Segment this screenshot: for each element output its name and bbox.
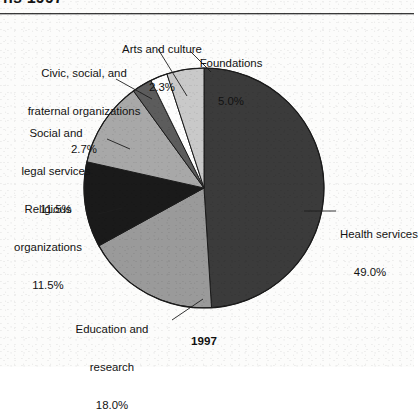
label-foundations-value: 5.0% (185, 95, 277, 108)
label-education-line1: Education and (56, 323, 168, 336)
label-religious-line2: organizations (2, 241, 94, 254)
label-religious-line1: Religious (2, 203, 94, 216)
label-foundations-line1: Foundations (185, 57, 277, 70)
year-label: 1997 (158, 334, 250, 347)
label-health-services: Health services 49.0% (340, 203, 414, 304)
label-social-legal-line2: legal services (10, 165, 102, 178)
label-health-value: 49.0% (340, 266, 414, 279)
label-social-legal-line1: Social and (10, 127, 102, 140)
label-religious-value: 11.5% (2, 279, 94, 292)
label-education-line2: research (56, 361, 168, 374)
label-religious-organizations: Religious organizations 11.5% (2, 178, 94, 317)
label-foundations: Foundations 5.0% (185, 32, 277, 133)
label-health-line1: Health services (340, 228, 414, 241)
label-education-and-research: Education and research 18.0% (56, 298, 168, 413)
label-civic-line1: Civic, social, and (10, 67, 158, 80)
label-education-value: 18.0% (56, 399, 168, 412)
